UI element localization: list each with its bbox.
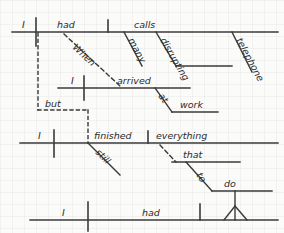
elision-triangle-left <box>224 206 235 220</box>
word-to: to <box>194 170 208 184</box>
word-i-4: I <box>62 207 65 218</box>
word-still: still <box>94 147 114 167</box>
word-do: do <box>224 178 236 189</box>
diagram-svg: I had calls many disrupting telephone Wh… <box>0 0 284 233</box>
word-but: but <box>45 98 62 109</box>
sentence-diagram-canvas: I had calls many disrupting telephone Wh… <box>0 0 284 233</box>
word-had-2: had <box>142 207 161 218</box>
diagram-strokes <box>12 18 278 231</box>
word-telephone: telephone <box>234 36 266 83</box>
word-disrupting: disrupting <box>158 36 192 83</box>
word-i-1: I <box>22 19 25 30</box>
relative-connector-dashed-that <box>160 145 176 162</box>
word-when: When <box>71 41 98 68</box>
word-i-3: I <box>38 130 41 141</box>
word-i-2: I <box>71 75 74 86</box>
word-arrived: arrived <box>117 75 152 86</box>
word-had-1: had <box>57 19 76 30</box>
word-finished: finished <box>94 130 133 141</box>
word-everything: everything <box>156 130 207 141</box>
word-labels: I had calls many disrupting telephone Wh… <box>22 19 266 218</box>
word-calls: calls <box>134 19 155 30</box>
word-work: work <box>180 99 203 110</box>
elision-triangle-right <box>235 206 247 220</box>
word-that: that <box>183 149 204 160</box>
word-many: many <box>126 36 148 65</box>
